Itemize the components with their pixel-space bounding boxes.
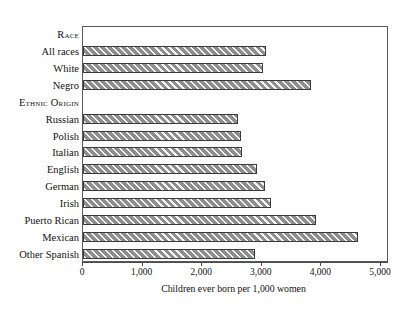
bar [83, 249, 255, 259]
bar [83, 198, 271, 208]
x-tick-label: 0 [80, 267, 85, 278]
category-rows: RaceAll racesWhiteNegroEthnic OriginRuss… [0, 26, 401, 262]
bar-chart: RaceAll racesWhiteNegroEthnic OriginRuss… [0, 0, 401, 309]
section-label: Race [57, 29, 79, 40]
bar [83, 46, 266, 56]
x-tick [201, 262, 202, 266]
x-tick [261, 262, 262, 266]
category-row: Puerto Rican [0, 211, 401, 228]
category-label: English [47, 164, 79, 175]
category-row: Negro [0, 77, 401, 94]
category-row: Irish [0, 195, 401, 212]
x-axis-title: Children ever born per 1,000 women [0, 283, 401, 295]
x-tick [82, 262, 83, 266]
x-tick-label: 2,000 [191, 267, 212, 278]
x-tick [380, 262, 381, 266]
bar [83, 80, 311, 90]
category-row: Other Spanish [0, 245, 401, 262]
bar [83, 181, 265, 191]
x-tick [320, 262, 321, 266]
bar [83, 131, 241, 141]
section-header-row: Race [0, 26, 401, 43]
category-label: All races [41, 46, 79, 57]
category-label: White [53, 63, 79, 74]
category-row: Polish [0, 127, 401, 144]
x-tick-label: 1,000 [131, 267, 152, 278]
x-tick-label: 3,000 [250, 267, 271, 278]
bar [83, 215, 316, 225]
category-label: Puerto Rican [24, 214, 79, 225]
bar [83, 147, 242, 157]
x-axis-line [82, 262, 388, 263]
category-row: White [0, 60, 401, 77]
category-row: English [0, 161, 401, 178]
category-label: Negro [53, 79, 79, 90]
category-row: Russian [0, 110, 401, 127]
section-header-row: Ethnic Origin [0, 93, 401, 110]
category-row: Italian [0, 144, 401, 161]
bar [83, 114, 238, 124]
category-label: Irish [60, 197, 79, 208]
category-row: Mexican [0, 228, 401, 245]
x-axis-title-text: Children ever born per 1,000 women [161, 283, 306, 295]
bar [83, 63, 263, 73]
x-tick-label: 4,000 [310, 267, 331, 278]
section-label: Ethnic Origin [19, 96, 79, 107]
category-label: Italian [52, 147, 79, 158]
category-label: Other Spanish [19, 248, 79, 259]
category-label: Mexican [42, 231, 79, 242]
x-tick-label: 5,000 [369, 267, 390, 278]
category-row: All races [0, 43, 401, 60]
x-tick [142, 262, 143, 266]
category-row: German [0, 178, 401, 195]
category-label: German [45, 181, 79, 192]
bar [83, 164, 257, 174]
category-label: Russian [46, 113, 79, 124]
category-label: Polish [53, 130, 79, 141]
bar [83, 232, 358, 242]
